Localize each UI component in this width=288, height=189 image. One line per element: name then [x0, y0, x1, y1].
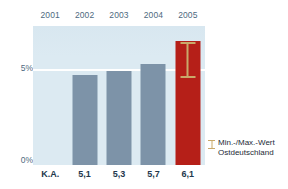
value-label-2003: 5,3 — [102, 167, 136, 181]
legend-text-line-1: Min.-/Max.-Wert — [218, 138, 275, 148]
bar-chart-figure: 2001 2002 2003 2004 2005 5% 0% — [0, 0, 288, 189]
error-bar-stem — [187, 42, 189, 78]
bar-2002 — [72, 75, 97, 165]
value-label-2005: 6,1 — [171, 167, 205, 181]
plot-area — [33, 26, 205, 165]
year-label-2001: 2001 — [33, 7, 67, 23]
bar-slot-2001 — [33, 26, 67, 165]
legend: Min.-/Max.-Wert Ostdeutschland — [208, 138, 288, 158]
bar-group — [33, 26, 205, 165]
error-bar-2005 — [180, 42, 195, 78]
legend-text-line-2: Ostdeutschland — [218, 148, 275, 158]
year-label-2005: 2005 — [171, 7, 205, 23]
year-axis-labels: 2001 2002 2003 2004 2005 — [33, 7, 205, 23]
bar-slot-2004 — [136, 26, 170, 165]
error-bar-icon — [208, 140, 215, 149]
value-label-2002: 5,1 — [67, 167, 101, 181]
bar-slot-2003 — [102, 26, 136, 165]
error-bar-cap-max — [180, 42, 195, 44]
error-bar-cap-min — [180, 76, 195, 78]
value-label-2004: 5,7 — [136, 167, 170, 181]
bar-2004 — [141, 64, 166, 165]
y-axis: 5% 0% — [0, 0, 33, 189]
error-bar-icon-cap-top — [208, 140, 215, 141]
year-label-2002: 2002 — [67, 7, 101, 23]
value-labels: K.A. 5,1 5,3 5,7 6,1 — [33, 167, 205, 181]
legend-text: Min.-/Max.-Wert Ostdeutschland — [218, 138, 275, 158]
y-tick-0-percent: 0% — [2, 155, 33, 165]
bar-2003 — [107, 71, 132, 165]
bar-slot-2002 — [67, 26, 101, 165]
year-label-2003: 2003 — [102, 7, 136, 23]
value-label-2001: K.A. — [33, 167, 67, 181]
bar-slot-2005 — [171, 26, 205, 165]
error-bar-icon-cap-bottom — [208, 148, 215, 149]
year-label-2004: 2004 — [136, 7, 170, 23]
y-tick-5-percent: 5% — [2, 63, 33, 73]
